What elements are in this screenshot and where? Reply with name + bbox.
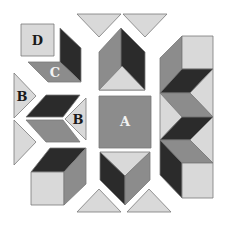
tangram-cube-diagram: D C B B A: [0, 0, 226, 227]
triangle-top-right: [123, 14, 167, 37]
triangle-top-left: [77, 14, 121, 37]
column-right-top-face: [182, 36, 213, 69]
cube-bl-front: [31, 172, 64, 205]
label-d: D: [32, 33, 43, 48]
label-c: C: [50, 65, 60, 80]
column-right-bottom-face: [182, 163, 213, 198]
label-b-right: B: [73, 112, 84, 127]
label-a: A: [119, 114, 131, 129]
label-b-left: B: [17, 89, 28, 104]
